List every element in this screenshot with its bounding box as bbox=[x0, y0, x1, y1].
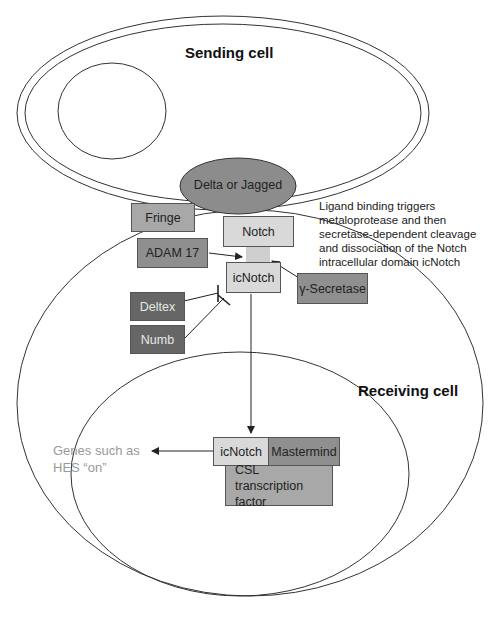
ligand-label: Delta or Jagged bbox=[183, 170, 293, 200]
output-genes-label: Genes such as HES “on” bbox=[53, 442, 153, 476]
cleavage-annotation: Ligand binding triggers metaloprotease a… bbox=[319, 199, 495, 269]
receiving-cell-label: Receiving cell bbox=[358, 382, 458, 399]
notch-box: Notch bbox=[223, 216, 294, 247]
numb-box: Numb bbox=[130, 325, 185, 354]
sending-cell-label: Sending cell bbox=[185, 44, 273, 61]
icnotch-box: icNotch bbox=[226, 262, 281, 293]
diagram-canvas bbox=[0, 0, 496, 624]
sending-cell-nucleus bbox=[58, 63, 166, 159]
csl-box: CSL transcription factor bbox=[225, 465, 333, 506]
gamma-secretase-box: γ-Secretase bbox=[297, 273, 368, 304]
fringe-box: Fringe bbox=[131, 203, 195, 232]
csl-label: CSL transcription factor bbox=[235, 462, 325, 510]
deltex-box: Deltex bbox=[130, 292, 185, 321]
cleavage-site bbox=[246, 247, 270, 262]
adam17-box: ADAM 17 bbox=[137, 238, 208, 268]
